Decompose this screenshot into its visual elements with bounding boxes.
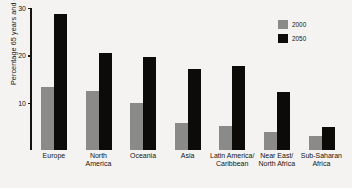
legend-swatch-icon-2000 (278, 20, 288, 29)
x-axis-label: Asia (165, 152, 210, 169)
bar-2000 (130, 103, 143, 150)
bar-group (76, 8, 121, 150)
chart-legend: 2000 2050 (278, 20, 306, 43)
bar-2050 (99, 53, 112, 151)
bar-2000 (264, 132, 277, 150)
bar-2050 (277, 92, 290, 150)
y-axis-title: Percentage 65 years and older (9, 0, 18, 100)
bar-group (121, 8, 166, 150)
y-tick-label: 20 (18, 52, 26, 59)
bar-2000 (175, 123, 188, 150)
bar-2050 (143, 57, 156, 150)
bar-2000 (309, 136, 322, 150)
legend-item-2000: 2000 (278, 20, 306, 29)
bar-2050 (188, 69, 201, 150)
legend-label-2000: 2000 (292, 21, 306, 28)
legend-swatch-icon-2050 (278, 34, 288, 43)
bar-2050 (54, 14, 67, 150)
bar-chart: Percentage 65 years and older 302010 Eur… (0, 0, 352, 188)
bar-group (165, 8, 210, 150)
bar-2000 (41, 87, 54, 150)
legend-item-2050: 2050 (278, 34, 306, 43)
x-axis-label: Near East/ North Africa (254, 152, 299, 169)
x-axis-label: North America (76, 152, 121, 169)
bar-2000 (86, 91, 99, 150)
bar-2050 (322, 127, 335, 150)
bar-group (210, 8, 255, 150)
y-tick-label: 30 (18, 5, 26, 12)
x-axis-label: Latin America/ Caribbean (210, 152, 255, 169)
bar-2000 (219, 126, 232, 150)
bar-group (32, 8, 77, 150)
x-axis-labels: EuropeNorth AmericaOceaniaAsiaLatin Amer… (32, 152, 344, 169)
y-tick-label: 10 (18, 99, 26, 106)
bar-2050 (232, 66, 245, 150)
x-axis-label: Europe (32, 152, 77, 169)
x-axis-label: Sub-Saharan Africa (299, 152, 344, 169)
legend-label-2050: 2050 (292, 35, 306, 42)
x-axis-label: Oceania (121, 152, 166, 169)
